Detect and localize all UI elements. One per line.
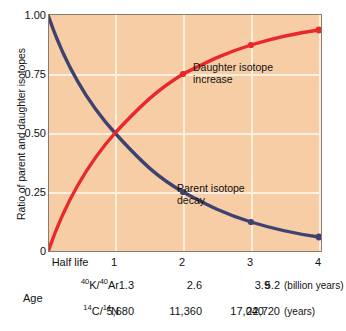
cell-kar-4: 5.2 xyxy=(242,279,280,291)
age-group-label: Age xyxy=(23,292,43,304)
x-tick-3: 3 xyxy=(247,256,253,268)
x-tick-4: 4 xyxy=(315,256,321,268)
parent-point-4 xyxy=(316,234,322,241)
daughter-isotope-annotation: Daughter isotope increase xyxy=(193,61,273,86)
y-tick-5: 0 xyxy=(12,246,46,257)
y-tick-2: 0.75 xyxy=(12,69,46,80)
daughter-point-4 xyxy=(316,27,322,34)
parent-isotope-annotation: Parent isotope decay xyxy=(177,182,245,207)
chart-figure: Ratio of parent and daughter isotopes 1.… xyxy=(0,0,346,331)
unit-kar: (billion years) xyxy=(284,280,343,291)
y-tick-4: 0.25 xyxy=(12,187,46,198)
unit-cn: (years) xyxy=(284,306,315,317)
row1-sup1: 40 xyxy=(81,277,89,286)
daughter-point-2 xyxy=(180,71,186,77)
daughter-increase-curve xyxy=(49,30,319,252)
parent-point-3 xyxy=(248,219,254,225)
plot-area: Daughter isotope increase Parent isotope… xyxy=(48,14,322,252)
cell-kar-2: 2.6 xyxy=(164,279,202,291)
daughter-point-3 xyxy=(248,42,254,48)
cell-cn-2: 11,360 xyxy=(150,305,202,317)
cell-cn-1: 5,680 xyxy=(82,305,134,317)
y-tick-1: 1.00 xyxy=(12,10,46,21)
cell-cn-4: 22,720 xyxy=(228,305,280,317)
y-tick-3: 0.50 xyxy=(12,128,46,139)
cell-kar-1: 1.3 xyxy=(96,279,134,291)
x-tick-2: 2 xyxy=(179,256,185,268)
x-tick-1: 1 xyxy=(111,256,117,268)
curves xyxy=(49,15,322,252)
x-tick-halflife: Half life xyxy=(52,256,89,268)
